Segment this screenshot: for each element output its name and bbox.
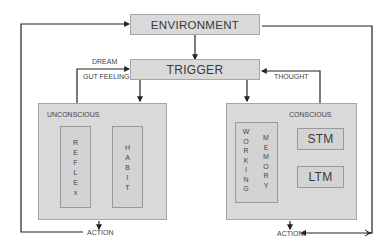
trigger-box: TRIGGER xyxy=(130,59,260,80)
action-left-label: ACTION xyxy=(87,229,113,236)
working-memory-box: W O R K I N G M E M O R Y xyxy=(235,122,278,203)
habit-label: H A B I T xyxy=(113,143,142,193)
environment-label: ENVIRONMENT xyxy=(151,19,239,31)
stm-box: STM xyxy=(297,128,344,150)
environment-box: ENVIRONMENT xyxy=(130,14,260,35)
ltm-label: LTM xyxy=(308,170,332,184)
gut-feeling-label: GUT FEELING xyxy=(83,73,130,80)
reflex-label: R E F L E x xyxy=(61,138,90,198)
thought-label: THOUGHT xyxy=(274,73,309,80)
reflex-box: R E F L E x xyxy=(60,126,91,208)
action-right-label: ACTION xyxy=(277,230,303,237)
trigger-label: TRIGGER xyxy=(167,63,224,77)
ltm-box: LTM xyxy=(297,166,344,188)
dream-label: DREAM xyxy=(92,58,117,65)
stm-label: STM xyxy=(307,132,333,146)
memory-label: M E M O R Y xyxy=(260,133,272,190)
unconscious-label: UNCONSCIOUS xyxy=(47,111,100,118)
unconscious-box: UNCONSCIOUS xyxy=(38,103,167,220)
conscious-label: CONSCIOUS xyxy=(289,111,331,118)
working-label: W O R K I N G xyxy=(240,127,252,194)
habit-box: H A B I T xyxy=(112,126,143,208)
